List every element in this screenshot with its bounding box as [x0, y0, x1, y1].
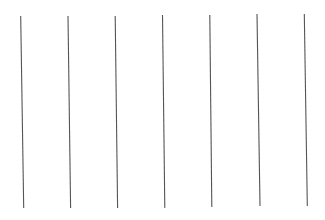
vertical-lines-figure	[0, 0, 325, 220]
